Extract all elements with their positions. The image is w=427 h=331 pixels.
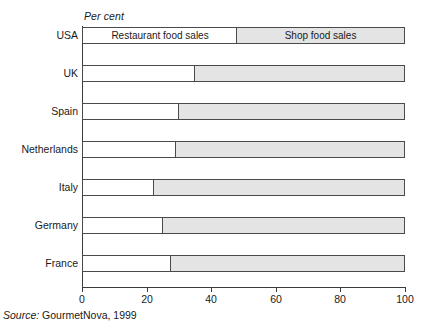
category-label: France — [4, 255, 78, 272]
x-axis-tick-label: 20 — [141, 293, 153, 305]
category-label: Spain — [4, 103, 78, 120]
x-axis-tick-mark — [147, 288, 148, 292]
x-axis-tick-label: 80 — [334, 293, 346, 305]
bar-segment-shop: Shop food sales — [236, 28, 404, 43]
bar-segment-shop — [153, 180, 404, 195]
axis-unit-label: Per cent — [84, 10, 124, 22]
x-axis-tick-label: 60 — [270, 293, 282, 305]
source-text: GourmetNova, 1999 — [42, 309, 137, 321]
legend-label-restaurant: Restaurant food sales — [111, 31, 208, 41]
bar-segment-restaurant — [83, 180, 154, 195]
category-label: Italy — [4, 179, 78, 196]
x-axis-tick-mark — [405, 288, 406, 292]
bar-row — [82, 179, 405, 196]
stacked-bar-chart-figure: Per cent USAUKSpainNetherlandsItalyGerma… — [0, 0, 427, 331]
category-label: UK — [4, 65, 78, 82]
x-axis-tick-mark — [211, 288, 212, 292]
category-label: Germany — [4, 217, 78, 234]
category-label-layer: USAUKSpainNetherlandsItalyGermanyFrance — [0, 26, 78, 288]
bar-segment-restaurant — [83, 66, 195, 81]
bar-row: Restaurant food salesShop food sales — [82, 27, 405, 44]
bar-row — [82, 217, 405, 234]
source-prefix: Source: — [3, 309, 39, 321]
bar-segment-shop — [162, 218, 404, 233]
bar-segment-restaurant — [83, 142, 176, 157]
bar-row — [82, 103, 405, 120]
bar-segment-restaurant — [83, 218, 163, 233]
x-axis-tick-mark — [276, 288, 277, 292]
bar-row — [82, 65, 405, 82]
x-axis-tick-label: 40 — [205, 293, 217, 305]
category-label: USA — [4, 27, 78, 44]
bar-segment-restaurant — [83, 104, 179, 119]
bar-row — [82, 141, 405, 158]
source-note: Source: GourmetNova, 1999 — [3, 309, 137, 321]
bar-segment-restaurant: Restaurant food sales — [83, 28, 237, 43]
bar-row — [82, 255, 405, 272]
legend-label-shop: Shop food sales — [285, 31, 357, 41]
bar-segment-restaurant — [83, 256, 171, 271]
x-axis-tick-label: 0 — [79, 293, 85, 305]
x-axis-tick-mark — [82, 288, 83, 292]
x-axis-tick-label: 100 — [396, 293, 414, 305]
bar-segment-shop — [175, 142, 404, 157]
x-axis-spine — [82, 287, 406, 288]
x-axis-tick-mark — [340, 288, 341, 292]
bar-segment-shop — [178, 104, 404, 119]
bar-segment-shop — [170, 256, 404, 271]
bar-segment-shop — [194, 66, 404, 81]
plot-area: Restaurant food salesShop food sales — [82, 26, 405, 286]
category-label: Netherlands — [4, 141, 78, 158]
